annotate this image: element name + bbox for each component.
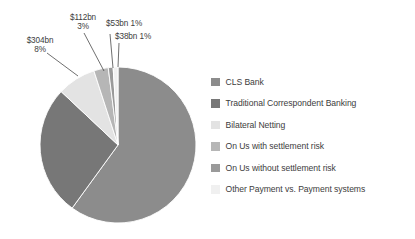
legend-item[interactable]: Other Payment vs. Payment systems: [211, 179, 411, 201]
callout-amount: $38bn 1%: [115, 32, 151, 41]
legend-color-swatch: [211, 164, 220, 173]
callout-percent: 8%: [17, 45, 63, 54]
leader-line-other-pvp: [118, 43, 119, 67]
pie-chart-figure: $304bn 8% $112bn 3% $53bn 1% $38bn 1% CL…: [0, 0, 415, 239]
leader-line-bilateral-netting: [47, 53, 78, 76]
callout-amount: $53bn 1%: [106, 19, 142, 28]
leader-line-on-us-with-risk: [84, 33, 104, 71]
legend-item[interactable]: Bilateral Netting: [211, 114, 411, 136]
legend-item-label: CLS Bank: [226, 77, 264, 87]
legend-item-label: On Us without settlement risk: [226, 163, 336, 173]
callout-amount: $304bn: [27, 36, 54, 45]
legend-item[interactable]: On Us with settlement risk: [211, 136, 411, 158]
legend-color-swatch: [211, 121, 220, 130]
legend-item-label: On Us with settlement risk: [226, 141, 325, 151]
callout-on-us-without-risk: $53bn 1%: [106, 19, 142, 28]
legend-item[interactable]: CLS Bank: [211, 71, 411, 93]
callout-bilateral-netting: $304bn 8%: [17, 36, 63, 55]
legend-item-label: Traditional Correspondent Banking: [226, 98, 357, 108]
legend-item[interactable]: On Us without settlement risk: [211, 157, 411, 179]
legend-color-swatch: [211, 142, 220, 151]
legend-color-swatch: [211, 99, 220, 108]
legend-item[interactable]: Traditional Correspondent Banking: [211, 93, 411, 115]
legend-color-swatch: [211, 78, 220, 87]
pie-slice-group: [40, 67, 196, 223]
legend-item-label: Bilateral Netting: [226, 120, 286, 130]
callout-amount: $112bn: [70, 13, 96, 22]
legend-item-label: Other Payment vs. Payment systems: [226, 184, 366, 194]
legend-color-swatch: [211, 185, 220, 194]
callout-other-pvp: $38bn 1%: [115, 32, 151, 41]
leader-line-on-us-without-risk: [110, 34, 113, 68]
callout-percent: 3%: [62, 22, 104, 31]
callout-on-us-with-risk: $112bn 3%: [62, 13, 104, 32]
chart-legend: CLS BankTraditional Correspondent Bankin…: [211, 71, 411, 200]
